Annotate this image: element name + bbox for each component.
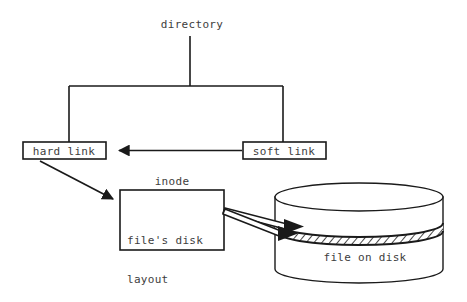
inode-contents-line-2: layout	[127, 273, 203, 286]
node-directory-label: directory	[161, 18, 223, 31]
node-inode-label: inode	[155, 175, 190, 188]
diagram-canvas: directory hard link soft link inode file…	[0, 0, 467, 302]
node-disk-label: file on disk	[323, 251, 406, 264]
inode-contents-line-1: file's disk	[127, 234, 203, 247]
node-inode-contents: file's disk layout	[127, 208, 203, 302]
node-soft-link-label: soft link	[253, 145, 315, 158]
node-hard-link-label: hard link	[33, 145, 95, 158]
edge-hard-link-to-inode-arrow	[40, 161, 113, 199]
